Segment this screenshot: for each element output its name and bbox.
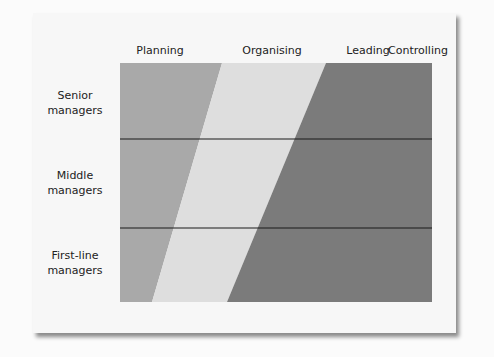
column-label-leading: Leading xyxy=(346,44,389,57)
column-label-controlling: Controlling xyxy=(388,44,448,57)
row-label-first-line: First-line managers xyxy=(40,248,110,278)
figure-caption-clipped xyxy=(8,350,158,357)
row-label-line: First-line xyxy=(40,248,110,263)
row-label-line: Middle xyxy=(40,168,110,183)
diagram-bands xyxy=(120,63,432,302)
row-label-middle: Middle managers xyxy=(40,168,110,198)
column-label-organising: Organising xyxy=(242,44,301,57)
row-label-line: managers xyxy=(40,263,110,278)
row-label-senior: Senior managers xyxy=(40,88,110,118)
column-label-planning: Planning xyxy=(136,44,183,57)
management-functions-diagram xyxy=(120,63,432,302)
row-label-line: Senior xyxy=(40,88,110,103)
row-label-line: managers xyxy=(40,103,110,118)
row-label-line: managers xyxy=(40,183,110,198)
